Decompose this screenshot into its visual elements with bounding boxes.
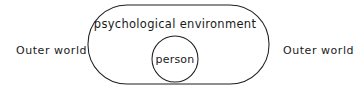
field-theory-diagram: psychological environment person Outer w…: [0, 0, 361, 94]
outer-world-right-label: Outer world: [283, 44, 354, 57]
psychological-environment-label: psychological environment: [94, 17, 257, 31]
person-label: person: [156, 53, 195, 66]
diagram-canvas: psychological environment person Outer w…: [0, 0, 361, 94]
outer-world-left-label: Outer world: [16, 44, 87, 57]
